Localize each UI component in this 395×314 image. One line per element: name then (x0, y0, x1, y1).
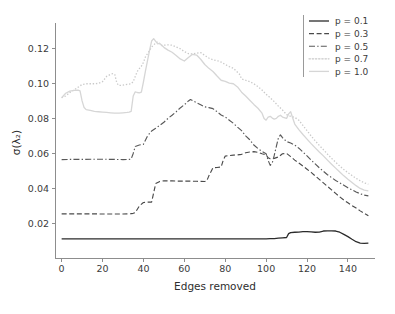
x-tick-label: 140 (339, 263, 357, 274)
line-chart: 020406080100120140 0.020.040.060.080.100… (0, 0, 395, 314)
legend-label: p = 0.3 (335, 29, 368, 39)
legend-label: p = 1.0 (335, 67, 369, 77)
y-tick-label: 0.12 (28, 43, 49, 54)
figure-canvas: 020406080100120140 0.020.040.060.080.100… (0, 0, 395, 314)
x-tick-label: 80 (219, 263, 231, 274)
legend-label: p = 0.7 (335, 54, 368, 64)
y-tick-label: 0.02 (28, 218, 49, 229)
y-tick-label: 0.10 (28, 78, 49, 89)
legend-label: p = 0.1 (335, 16, 368, 26)
y-axis-title: σ(λ₂) (10, 130, 22, 155)
x-tick-label: 20 (96, 263, 108, 274)
x-tick-label: 60 (178, 263, 190, 274)
y-tick-label: 0.08 (28, 113, 49, 124)
x-tick-label: 100 (257, 263, 275, 274)
y-tick-label: 0.04 (28, 183, 49, 194)
x-tick-label: 0 (59, 263, 65, 274)
y-tick-label: 0.06 (28, 148, 49, 159)
x-axis-title: Edges removed (174, 280, 256, 292)
x-tick-label: 120 (298, 263, 316, 274)
legend-label: p = 0.5 (335, 42, 368, 52)
x-tick-label: 40 (137, 263, 149, 274)
